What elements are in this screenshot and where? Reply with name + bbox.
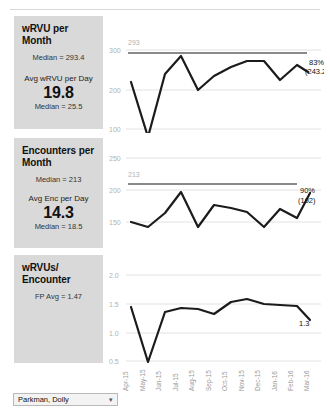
xtick-nov-15: Nov-15 [238,370,245,391]
top-divider [10,9,320,10]
ytick-1-5: 1.5 [109,301,119,308]
end-annotation: 83% (243.2) [305,58,324,76]
metric-value: 19.8 [14,83,103,102]
xtick-jun-15: Jun-15 [155,371,162,391]
metric-value: 14.3 [14,203,103,222]
card-metric-block: Avg wRVU per Day 19.8 Median = 25.5 [14,74,103,111]
card-title: wRVU per Month [22,23,97,47]
card-title-line2: Month [22,157,97,169]
chevron-down-icon[interactable]: ▾ [109,394,113,405]
series-line-rvue [131,299,310,362]
xtick-sep-15: Sep-15 [205,370,212,391]
card-median: Median = 293.4 [20,53,97,62]
annotation-pct: 1.3 [299,319,309,328]
annotation-value: (243.2) [305,67,324,76]
card-median: FP Avg = 1.47 [20,292,97,301]
footer: Parkman, Dolly ▾ [0,391,330,409]
reference-line-label: 213 [128,171,140,178]
xtick-aug-15: Aug-15 [188,370,195,391]
card-wrvus-per-encounter: wRVUs/ Encounter FP Avg = 1.47 [14,255,103,363]
ytick-200: 200 [109,87,121,94]
annotation-pct: 83% [309,58,324,67]
chart-svg-wrvu: 300 200 100 293 83% (243.2) [109,29,324,133]
card-title: Encounters per Month [22,145,97,169]
annotation-value: (192) [298,196,316,205]
provider-select-value: Parkman, Dolly [18,395,69,404]
xtick-jul-15: Jul-15 [172,373,179,391]
ytick-100: 100 [109,126,121,133]
annotation-pct: 90% [300,186,315,195]
chart-wrvu-per-month: 300 200 100 293 83% (243.2) [109,29,324,133]
gridlines [126,158,321,222]
xtick-mar-16: Mar-16 [303,370,310,391]
chart-svg-enc: 250 200 150 213 90% (192) [109,148,324,248]
chart-svg-rvue: 2.0 1.5 1.0 0.5 1.3 [109,263,324,367]
end-annotation: 90% (192) [298,186,316,205]
card-encounters-per-month: Encounters per Month Median = 213 Avg En… [14,138,103,248]
card-title: wRVUs/ Encounter [22,262,97,286]
card-title-line2: Month [22,35,97,47]
panel-wrvu-per-month: wRVU per Month Median = 293.4 Avg wRVU p… [0,13,330,133]
ytick-150: 150 [109,219,121,226]
xtick-oct-15: Oct-15 [221,371,228,391]
card-title-line2: Encounter [22,274,97,286]
card-title-line1: wRVUs/ [22,262,97,274]
chart-wrvus-per-encounter: 2.0 1.5 1.0 0.5 1.3 [109,263,324,367]
panel-wrvus-per-encounter: wRVUs/ Encounter FP Avg = 1.47 2.0 1.5 1… [0,253,330,365]
top-strip [0,0,330,9]
card-wrvu-per-month: wRVU per Month Median = 293.4 Avg wRVU p… [14,16,103,129]
xtick-jan-16: Jan-16 [271,371,278,391]
xtick-may-15: May-15 [139,369,146,391]
chart-encounters-per-month: 250 200 150 213 90% (192) [109,148,324,248]
y-tick-labels: 250 200 150 [109,155,121,226]
series-line-wrvu [131,56,308,133]
ytick-2-0: 2.0 [109,272,119,279]
metric-median: Median = 18.5 [14,222,103,231]
metric-label: Avg Enc per Day [14,194,103,203]
metric-label: Avg wRVU per Day [14,74,103,83]
gridlines [126,50,321,129]
provider-select[interactable]: Parkman, Dolly ▾ [13,393,118,406]
ytick-1-0: 1.0 [109,330,119,337]
ytick-200: 200 [109,187,121,194]
ytick-250: 250 [109,155,121,162]
card-title-line1: Encounters per [22,145,97,157]
card-metric-block: Avg Enc per Day 14.3 Median = 18.5 [14,194,103,231]
y-tick-labels: 2.0 1.5 1.0 0.5 [109,272,119,365]
ytick-300: 300 [109,47,121,54]
metric-median: Median = 25.5 [14,102,103,111]
reference-line-label: 293 [128,39,140,46]
xtick-feb-16: Feb-16 [287,370,294,391]
card-median: Median = 213 [20,175,97,184]
x-axis: Apr-15 May-15 Jun-15 Jul-15 Aug-15 Sep-1… [109,357,324,391]
panel-encounters-per-month: Encounters per Month Median = 213 Avg En… [0,136,330,253]
xtick-apr-15: Apr-15 [122,371,129,391]
xtick-dec-15: Dec-15 [254,370,261,391]
card-title-line1: wRVU per [22,23,97,35]
gridlines [126,275,321,361]
y-tick-labels: 300 200 100 [109,47,121,133]
